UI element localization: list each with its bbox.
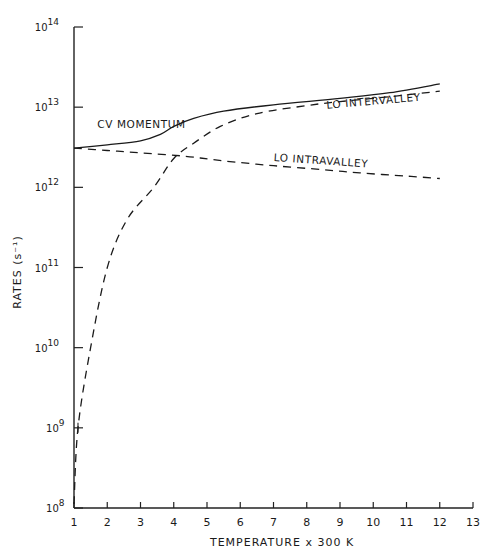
labels: CV MOMENTUMLO INTERVALLEYLO INTRAVALLEY xyxy=(97,91,421,170)
annotation-cv-momentum: CV MOMENTUM xyxy=(97,118,185,130)
y-tick-label: 1013 xyxy=(35,97,59,113)
x-tick-label: 7 xyxy=(270,516,277,529)
y-tick-label: 1011 xyxy=(35,258,59,274)
x-tick-label: 11 xyxy=(400,516,414,529)
x-tick-label: 8 xyxy=(303,516,310,529)
x-tick-label: 3 xyxy=(137,516,144,529)
curve-lo-intravalley xyxy=(74,148,440,178)
y-tick-label: 1014 xyxy=(35,17,59,33)
x-tick-label: 9 xyxy=(337,516,344,529)
curves xyxy=(74,84,440,504)
x-tick-label: 10 xyxy=(366,516,380,529)
y-tick-label: 109 xyxy=(46,418,65,434)
curve-lo-intervalley xyxy=(74,91,440,504)
x-tick-label: 2 xyxy=(104,516,111,529)
x-tick-label: 1 xyxy=(71,516,78,529)
x-tick-label: 5 xyxy=(204,516,211,529)
x-tick-label: 4 xyxy=(170,516,177,529)
x-tick-label: 6 xyxy=(237,516,244,529)
x-tick-label: 13 xyxy=(466,516,480,529)
x-tick-label: 12 xyxy=(433,516,447,529)
y-tick-label: 108 xyxy=(46,498,65,514)
rates-vs-temperature-chart: 1234567891011121310810910101011101210131… xyxy=(0,0,498,555)
y-tick-label: 1012 xyxy=(35,177,59,193)
y-axis-label: RATES (s⁻¹) xyxy=(11,235,24,309)
annotation-lo-intervalley: LO INTERVALLEY xyxy=(326,91,421,111)
y-tick-label: 1010 xyxy=(35,338,59,354)
x-axis-label: TEMPERATURE x 300 K xyxy=(209,536,354,549)
